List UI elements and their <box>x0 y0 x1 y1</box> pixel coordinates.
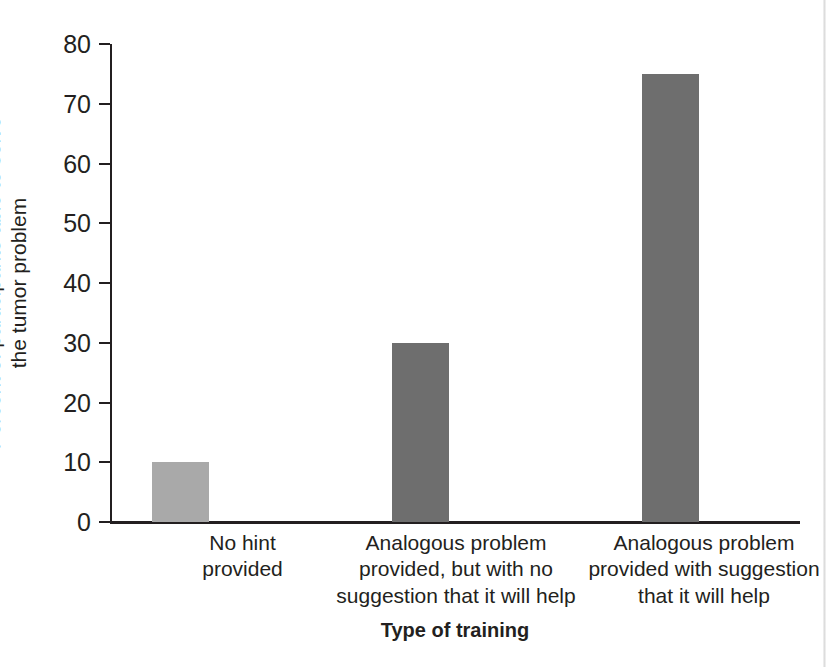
x-axis-category-label-line: No hint <box>180 530 305 556</box>
y-axis-tick-label: 70 <box>63 91 91 116</box>
y-axis-tick: 80 <box>99 43 110 45</box>
y-axis-tick: 40 <box>99 282 110 284</box>
y-axis-title-line-2: the tumor problem <box>6 117 32 450</box>
y-axis-tick-label: 30 <box>63 330 91 355</box>
y-axis-tick: 10 <box>99 461 110 463</box>
y-axis-tick-label: 20 <box>63 390 91 415</box>
x-axis-category-label-line: that it will help <box>580 583 828 609</box>
bar <box>392 343 449 522</box>
x-axis-category-labels: No hintprovidedAnalogous problemprovided… <box>110 530 800 614</box>
y-axis-tick-label: 40 <box>63 271 91 296</box>
y-axis-tick: 50 <box>99 222 110 224</box>
x-axis-category-label-line: suggestion that it will help <box>332 583 580 609</box>
x-axis-category-label: Analogous problemprovided with suggestio… <box>580 530 828 609</box>
x-axis-category-label-line: Analogous problem <box>580 530 828 556</box>
bar <box>152 462 209 522</box>
x-axis-category-label-line: provided <box>180 556 305 582</box>
x-axis-category-label: Analogous problemprovided, but with nosu… <box>332 530 580 609</box>
y-axis-tick: 30 <box>99 342 110 344</box>
y-axis-tick-label: 0 <box>77 510 91 535</box>
y-axis-tick: 20 <box>99 402 110 404</box>
chart-page: 01020304050607080 Percent of participant… <box>0 0 840 667</box>
y-axis-title: Percent of participants able to solve th… <box>0 117 32 450</box>
x-axis-category-label-line: Analogous problem <box>332 530 580 556</box>
y-axis-tick-label: 60 <box>63 151 91 176</box>
y-axis-tick: 60 <box>99 163 110 165</box>
y-axis-tick: 70 <box>99 103 110 105</box>
x-axis-category-label-line: provided, but with no <box>332 556 580 582</box>
scan-margin <box>826 0 840 667</box>
y-axis-title-line-1: Percent of participants able to solve <box>0 117 6 450</box>
y-axis-tick: 0 <box>99 521 110 523</box>
x-axis-category-label: No hintprovided <box>180 530 305 583</box>
x-axis-title: Type of training <box>110 619 800 642</box>
bar <box>642 74 699 522</box>
y-axis-tick-label: 50 <box>63 211 91 236</box>
y-axis-tick-label: 10 <box>63 450 91 475</box>
y-axis-line <box>110 44 112 522</box>
y-axis-tick-label: 80 <box>63 32 91 57</box>
x-axis-category-label-line: provided with suggestion <box>580 556 828 582</box>
plot-area: 01020304050607080 Percent of participant… <box>110 44 800 522</box>
